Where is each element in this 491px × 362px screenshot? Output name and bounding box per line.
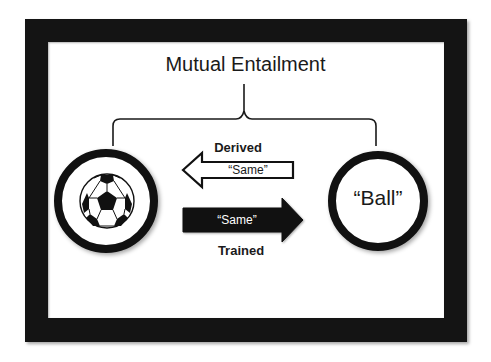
trained-arrow-text: “Same” xyxy=(187,213,287,227)
soccer-ball-icon xyxy=(80,174,134,228)
diagram-title: Mutual Entailment xyxy=(0,53,491,76)
brace-connector xyxy=(113,84,376,146)
word-node-label: “Ball” xyxy=(328,186,428,210)
trained-label: Trained xyxy=(181,243,301,258)
soccer-ball-node xyxy=(58,153,154,249)
derived-arrow-text: “Same” xyxy=(198,163,298,177)
derived-label: Derived xyxy=(178,140,298,155)
